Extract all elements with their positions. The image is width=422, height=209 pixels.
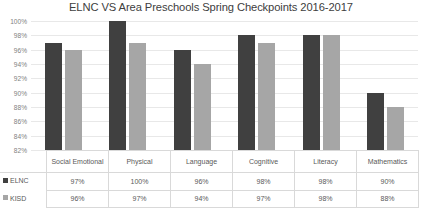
table-cell-value: 100% <box>109 173 171 190</box>
table-column-header: Social Emotional <box>47 151 109 173</box>
data-table: Social EmotionalPhysicalLanguageCognitiv… <box>0 150 419 208</box>
legend-label: KISD <box>10 195 26 202</box>
bar-kisd <box>258 43 275 151</box>
y-axis-tick-label: 94% <box>14 61 27 68</box>
bar-elnc <box>45 43 62 151</box>
bar-elnc <box>109 21 126 150</box>
y-axis-tick-label: 92% <box>14 75 27 82</box>
chart-title: ELNC VS Area Preschools Spring Checkpoin… <box>0 1 422 13</box>
table-column-header: Mathematics <box>357 151 419 173</box>
bar-elnc <box>238 35 255 150</box>
legend-label: ELNC <box>10 178 29 185</box>
legend-entry-elnc[interactable]: ELNC <box>1 173 47 190</box>
table-corner-cell <box>1 151 47 173</box>
legend-entry-kisd[interactable]: KISD <box>1 190 47 207</box>
bar-group <box>31 21 96 150</box>
bar-elnc <box>367 93 384 150</box>
data-table-body: Social EmotionalPhysicalLanguageCognitiv… <box>1 151 419 208</box>
table-cell-value: 97% <box>47 173 109 190</box>
plot-area <box>31 21 418 150</box>
table-cell-value: 96% <box>47 190 109 207</box>
y-axis-tick-label: 96% <box>14 46 27 53</box>
y-axis-tick-label: 90% <box>14 89 27 96</box>
bar-kisd <box>194 64 211 150</box>
bar-group <box>160 21 225 150</box>
table-column-header: Cognitive <box>233 151 295 173</box>
table-header-row: Social EmotionalPhysicalLanguageCognitiv… <box>1 151 419 173</box>
y-axis-tick-label: 88% <box>14 104 27 111</box>
table-cell-value: 97% <box>109 190 171 207</box>
table-cell-value: 98% <box>295 173 357 190</box>
table-cell-value: 88% <box>357 190 419 207</box>
legend-swatch-icon <box>3 178 8 183</box>
table-cell-value: 96% <box>171 173 233 190</box>
table-row: ELNC97%100%96%98%98%90% <box>1 173 419 190</box>
table-column-header: Language <box>171 151 233 173</box>
table-column-header: Physical <box>109 151 171 173</box>
table-column-header: Literacy <box>295 151 357 173</box>
bar-group <box>289 21 354 150</box>
y-axis-labels: 100%98%96%94%92%90%88%86%84%82% <box>0 21 29 150</box>
bars-layer <box>31 21 418 150</box>
table-cell-value: 97% <box>233 190 295 207</box>
bar-kisd <box>323 35 340 150</box>
table-cell-value: 98% <box>295 190 357 207</box>
y-axis-tick-label: 100% <box>10 18 27 25</box>
bar-kisd <box>387 107 404 150</box>
y-axis-tick-label: 98% <box>14 32 27 39</box>
bar-kisd <box>129 43 146 151</box>
bar-group <box>96 21 161 150</box>
bar-group <box>225 21 290 150</box>
chart-container: ELNC VS Area Preschools Spring Checkpoin… <box>0 0 422 209</box>
bar-kisd <box>65 50 82 150</box>
table-cell-value: 90% <box>357 173 419 190</box>
y-axis-tick-label: 86% <box>14 118 27 125</box>
bar-elnc <box>174 50 191 150</box>
bar-group <box>354 21 419 150</box>
legend-swatch-icon <box>3 195 8 200</box>
bar-elnc <box>303 35 320 150</box>
table-row: KISD96%97%94%97%98%88% <box>1 190 419 207</box>
y-axis-tick-label: 84% <box>14 132 27 139</box>
table-cell-value: 98% <box>233 173 295 190</box>
table-cell-value: 94% <box>171 190 233 207</box>
